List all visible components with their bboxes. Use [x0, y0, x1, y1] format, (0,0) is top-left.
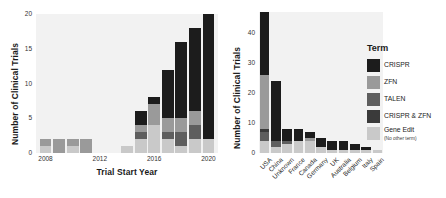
bar-segment	[135, 111, 147, 125]
bar-segment	[162, 139, 174, 153]
x-tick-year: 2012	[86, 155, 114, 162]
bar-segment	[135, 132, 147, 139]
legend-item[interactable]: ZFN	[367, 76, 445, 90]
bar-segment	[260, 141, 270, 153]
bar-country	[260, 12, 270, 153]
bar-segment	[305, 132, 315, 138]
y-tick-country: 0	[237, 149, 255, 156]
bar-year	[203, 14, 215, 153]
bar-segment	[189, 139, 201, 153]
bar-segment	[327, 141, 337, 150]
bar-segment	[135, 125, 147, 132]
bar-segment	[162, 118, 174, 132]
bar-year	[162, 14, 174, 153]
bar-segment	[67, 146, 79, 153]
y-tick-year: 20	[14, 10, 32, 17]
bar-segment	[294, 141, 304, 153]
bar-segment	[361, 150, 371, 153]
legend: Term CRISPRZFNTALENCRISPR & ZFNGene Edit…	[367, 43, 445, 143]
y-tick-year: 10	[14, 80, 32, 87]
bar-segment	[175, 132, 187, 146]
bar-country	[305, 12, 315, 153]
y-tick-country: 10	[237, 119, 255, 126]
y-tick-year: 5	[14, 114, 32, 121]
legend-swatch	[367, 110, 380, 123]
y-tick-year: 0	[14, 149, 32, 156]
bar-year	[121, 14, 133, 153]
bar-year	[40, 14, 52, 153]
bar-segment	[162, 132, 174, 139]
bar-segment	[148, 125, 160, 153]
bar-segment	[80, 139, 92, 153]
bar-year	[67, 14, 79, 153]
bar-segment	[53, 139, 65, 153]
bar-segment	[67, 139, 79, 146]
bar-segment	[175, 118, 187, 132]
bar-segment	[40, 146, 52, 153]
bar-country	[271, 12, 281, 153]
bar-segment	[260, 12, 270, 75]
bar-segment	[373, 150, 383, 153]
x-tick-year: 2020	[194, 155, 222, 162]
x-tick-year: 2016	[140, 155, 168, 162]
bar-country	[327, 12, 337, 153]
bar-segment	[339, 141, 349, 150]
bar-segment	[305, 141, 315, 153]
bar-country	[316, 12, 326, 153]
bar-country	[339, 12, 349, 153]
bar-year	[53, 14, 65, 153]
y-tick-year: 15	[14, 45, 32, 52]
x-axis-title-year: Trial Start Year	[36, 167, 218, 177]
bar-segment	[305, 138, 315, 141]
bar-segment	[327, 150, 337, 153]
bar-segment	[189, 111, 201, 125]
bar-segment	[260, 129, 270, 132]
bar-segment	[316, 138, 326, 147]
bar-segment	[350, 144, 360, 150]
bar-segment	[350, 150, 360, 153]
legend-item-label: Gene Edit	[384, 126, 414, 133]
legend-swatch	[367, 59, 380, 72]
legend-title: Term	[367, 43, 388, 53]
legend-item-label: CRISPR	[384, 61, 410, 68]
legend-item-sublabel: (No other term)	[384, 136, 417, 141]
bar-segment	[361, 147, 371, 150]
bar-segment	[260, 132, 270, 141]
y-axis-title-year: Number of Clinical Trials	[10, 43, 20, 145]
legend-item-label: TALEN	[384, 95, 405, 102]
legend-item[interactable]: Gene Edit(No other term)	[367, 127, 445, 141]
bar-segment	[189, 125, 201, 139]
y-tick-country: 20	[237, 89, 255, 96]
bar-segment	[40, 139, 52, 146]
bar-segment	[282, 141, 292, 144]
bar-year	[189, 14, 201, 153]
y-tick-country: 30	[237, 59, 255, 66]
bar-segment	[271, 147, 281, 153]
bar-segment	[271, 81, 281, 141]
bar-segment	[175, 42, 187, 118]
bar-segment	[148, 104, 160, 125]
y-tick-country: 40	[237, 29, 255, 36]
bar-segment	[175, 146, 187, 153]
bar-segment	[162, 70, 174, 119]
bar-country	[350, 12, 360, 153]
legend-swatch	[367, 76, 380, 89]
bar-segment	[203, 14, 215, 139]
bar-segment	[203, 139, 215, 153]
bar-segment	[294, 129, 304, 141]
bar-country	[282, 12, 292, 153]
figure-root: Number of Clinical Trials051015202008201…	[0, 0, 446, 198]
legend-swatch	[367, 127, 380, 140]
legend-item[interactable]: CRISPR	[367, 59, 445, 73]
bar-segment	[148, 97, 160, 104]
legend-item[interactable]: TALEN	[367, 93, 445, 107]
bar-segment	[135, 139, 147, 153]
legend-item[interactable]: CRISPR & ZFN	[367, 110, 445, 124]
legend-item-label: CRISPR & ZFN	[384, 112, 431, 119]
chart-trials-by-year: Number of Clinical Trials051015202008201…	[0, 0, 223, 198]
bar-segment	[339, 150, 349, 153]
bar-year	[175, 14, 187, 153]
bar-year	[148, 14, 160, 153]
bar-year	[80, 14, 92, 153]
bar-segment	[316, 147, 326, 153]
